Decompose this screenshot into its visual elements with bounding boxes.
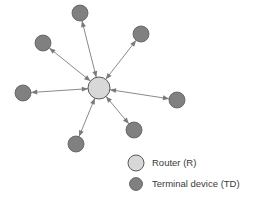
terminal-device-node[interactable]: Terminal device (TD)	[126, 122, 142, 138]
terminal-circle[interactable]	[126, 122, 142, 138]
legend-item-label: Terminal device (TD)	[152, 178, 240, 189]
terminal-device-node[interactable]: Terminal device (TD)	[133, 26, 149, 42]
terminal-device-node[interactable]: Terminal device (TD)	[15, 85, 31, 101]
terminal-circle[interactable]	[133, 26, 149, 42]
diagram-canvas: Router (R)Terminal device (TD)Terminal d…	[0, 0, 255, 205]
terminal-circle[interactable]	[169, 92, 185, 108]
terminal-device-node[interactable]: Terminal device (TD)	[35, 35, 51, 51]
router-node[interactable]: Router (R)	[88, 77, 110, 99]
network-diagram: Router (R)Terminal device (TD)Terminal d…	[0, 0, 255, 205]
router-circle[interactable]	[88, 77, 110, 99]
terminal-device-node[interactable]: Terminal device (TD)	[72, 5, 88, 21]
terminal-device-node[interactable]: Terminal device (TD)	[169, 92, 185, 108]
terminal-circle[interactable]	[68, 136, 84, 152]
terminal-device-node[interactable]: Terminal device (TD)	[68, 136, 84, 152]
diagram-background	[0, 0, 255, 205]
legend-router-swatch-icon	[128, 155, 144, 171]
legend-item-label: Router (R)	[152, 157, 196, 168]
legend-terminal-swatch-icon	[130, 178, 143, 191]
terminal-circle[interactable]	[15, 85, 31, 101]
terminal-circle[interactable]	[72, 5, 88, 21]
terminal-circle[interactable]	[35, 35, 51, 51]
